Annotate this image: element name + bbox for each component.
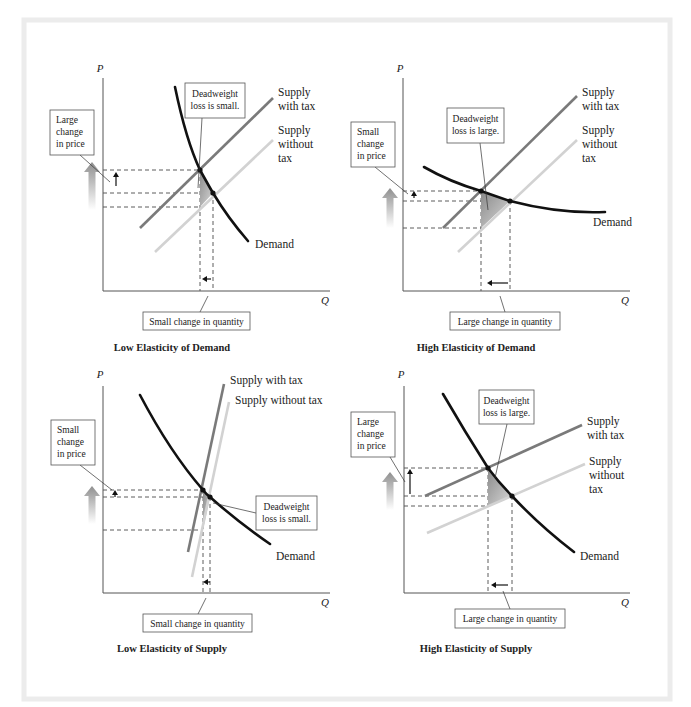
supply-without-tax-label-line: without [589,469,625,481]
price-change-text-line: Large [56,115,78,125]
supply-with-tax-label-line: Supply [587,415,620,428]
deadweight-loss-text-line: Deadweight [484,396,530,406]
x-axis-label: Q [621,596,629,608]
panel-title: High Elasticity of Supply [420,643,533,654]
deadweight-loss-text-line: loss is large. [452,126,499,136]
price-change-text-line: change [357,429,384,439]
supply-without-tax-label-line: Supply [582,124,615,137]
supply-with-tax-label-line: with tax [587,429,625,441]
tax-elasticity-figure: PQDeadweightloss is small.Largechangein … [0,0,691,707]
supply-without-tax-label-line: Supply without tax [235,394,323,407]
supply-with-tax-label-line: with tax [278,100,316,112]
price-change-text-line: in price [357,151,386,161]
supply-without-tax-label-line: without [278,138,314,150]
demand-label: Demand [580,550,619,562]
panel-title: Low Elasticity of Supply [117,643,228,654]
x-axis-label: Q [321,294,329,306]
equilibrium-point-with-tax [485,465,490,470]
supply-with-tax-label: Supply with tax [230,374,303,387]
equilibrium-point-without-tax [207,494,212,499]
quantity-change-text: Small change in quantity [150,619,245,629]
y-axis-label: P [396,62,404,74]
supply-without-tax-label: Supply without tax [235,394,323,407]
x-axis-label: Q [621,294,629,306]
quantity-change-text: Large change in quantity [458,317,553,327]
price-change-text-line: change [57,437,84,447]
deadweight-loss-text-line: Deadweight [264,502,310,512]
deadweight-loss-text-line: loss is large. [483,408,530,418]
equilibrium-point-with-tax [197,167,202,172]
price-change-text-line: Large [357,417,379,427]
demand-label: Demand [255,238,294,250]
y-axis-label: P [397,368,405,380]
supply-with-tax-label-line: with tax [582,100,620,112]
price-change-text-line: in price [357,441,386,451]
y-axis-label: P [96,368,104,380]
equilibrium-point-without-tax [210,190,215,195]
figure-frame [24,20,670,699]
equilibrium-point-without-tax [509,493,514,498]
supply-with-tax-label-line: Supply with tax [230,374,303,387]
price-change-text-line: Small [357,127,380,137]
deadweight-loss-text-line: loss is small. [191,101,240,111]
supply-without-tax-label-line: tax [589,483,603,495]
quantity-change-text: Large change in quantity [463,614,558,624]
price-change-text-line: Small [57,425,80,435]
panel-title: Low Elasticity of Demand [114,342,231,353]
y-axis-label: P [96,62,104,74]
deadweight-loss-text-line: Deadweight [192,89,238,99]
panel-title: High Elasticity of Demand [417,342,536,353]
supply-without-tax-label-line: Supply [589,455,622,468]
quantity-change-text: Small change in quantity [149,317,244,327]
price-change-text-line: change [56,127,83,137]
demand-label: Demand [593,216,632,228]
deadweight-loss-text-line: Deadweight [453,114,499,124]
deadweight-loss-text-line: loss is small. [262,514,311,524]
price-change-text-line: in price [56,139,85,149]
supply-without-tax-label-line: Supply [278,124,311,137]
supply-without-tax-label-line: without [582,138,618,150]
equilibrium-point-with-tax [200,487,205,492]
price-change-text-line: in price [57,449,86,459]
price-change-text-line: change [357,139,384,149]
supply-without-tax-label-line: tax [582,152,596,164]
x-axis-label: Q [321,596,329,608]
supply-with-tax-label-line: Supply [278,86,311,99]
equilibrium-point-with-tax [478,188,483,193]
equilibrium-point-without-tax [507,198,512,203]
supply-without-tax-label-line: tax [278,152,292,164]
supply-with-tax-label-line: Supply [582,86,615,99]
demand-label: Demand [276,550,315,562]
